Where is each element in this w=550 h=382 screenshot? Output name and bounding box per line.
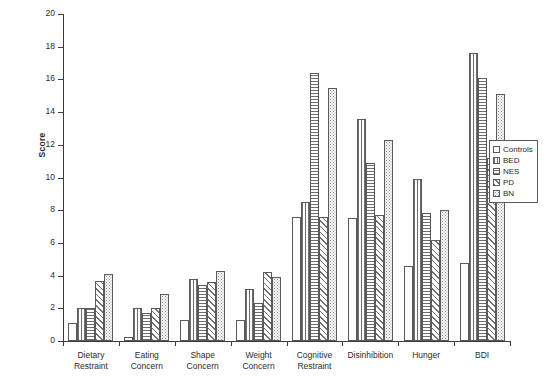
bar xyxy=(366,163,375,341)
bar xyxy=(68,323,77,341)
bar xyxy=(496,94,505,341)
legend-swatch-icon xyxy=(493,179,500,186)
x-axis-category-label: Disinhibition xyxy=(342,350,398,361)
legend-item: NES xyxy=(493,166,533,177)
x-axis-category-label: Weight Concern xyxy=(231,350,287,372)
y-axis-tick-label: 8 xyxy=(50,204,55,214)
bar-groups xyxy=(63,14,510,341)
bar xyxy=(86,308,95,341)
bar xyxy=(384,140,393,341)
x-axis-category-label: Shape Concern xyxy=(175,350,231,372)
legend-item: BN xyxy=(493,188,533,199)
legend-swatch-icon xyxy=(493,146,500,153)
x-axis-tick xyxy=(175,341,176,346)
x-axis-category-label: Eating Concern xyxy=(119,350,175,372)
bar-group xyxy=(119,14,175,341)
y-axis-tick-label: 18 xyxy=(46,41,55,51)
y-axis-tick-label: 2 xyxy=(50,302,55,312)
bar xyxy=(236,320,245,341)
bar xyxy=(469,53,478,341)
legend-swatch-icon xyxy=(493,157,500,164)
x-axis-tick xyxy=(342,341,343,346)
y-axis-tick-label: 14 xyxy=(46,106,55,116)
bar xyxy=(133,308,142,341)
bar xyxy=(422,213,431,341)
bar xyxy=(375,215,384,341)
x-axis-category-label: Dietary Restraint xyxy=(63,350,119,372)
legend-item-label: NES xyxy=(503,167,519,176)
bar-group-bars xyxy=(119,14,175,341)
bar xyxy=(431,240,440,341)
bar xyxy=(245,289,254,341)
bar xyxy=(404,266,413,341)
bar-chart: Score 02468101214161820 Dietary Restrain… xyxy=(0,0,550,382)
bar xyxy=(460,263,469,341)
bar-group xyxy=(231,14,287,341)
x-axis-tick xyxy=(510,341,511,346)
y-axis-tick-label: 4 xyxy=(50,270,55,280)
plot-area: 02468101214161820 Dietary RestraintEatin… xyxy=(63,14,510,341)
bar xyxy=(319,217,328,341)
legend-item-label: BED xyxy=(503,156,519,165)
bar xyxy=(310,73,319,341)
y-axis-tick-label: 10 xyxy=(46,172,55,182)
y-axis-tick-label: 12 xyxy=(46,139,55,149)
bar-group-bars xyxy=(231,14,287,341)
bar xyxy=(216,271,225,341)
bar xyxy=(142,313,151,341)
bar xyxy=(348,218,357,341)
x-axis-tick xyxy=(63,341,64,346)
x-axis-category-label: BDI xyxy=(454,350,510,361)
bar-group-bars xyxy=(342,14,398,341)
bar-group-bars xyxy=(63,14,119,341)
bar xyxy=(301,202,310,341)
bar xyxy=(95,281,104,341)
chart-legend: ControlsBEDNESPDBN xyxy=(489,140,538,203)
bar xyxy=(263,272,272,341)
x-axis-tick xyxy=(119,341,120,346)
bar xyxy=(151,308,160,341)
bar-group-bars xyxy=(175,14,231,341)
legend-item: Controls xyxy=(493,144,533,155)
bar xyxy=(77,308,86,341)
bar xyxy=(180,320,189,341)
bar xyxy=(440,210,449,341)
legend-item-label: Controls xyxy=(503,145,533,154)
bar xyxy=(357,119,366,341)
legend-swatch-icon xyxy=(493,190,500,197)
legend-swatch-icon xyxy=(493,168,500,175)
x-axis-tick xyxy=(398,341,399,346)
bar-group xyxy=(342,14,398,341)
bar-group xyxy=(287,14,343,341)
legend-item-label: BN xyxy=(503,189,514,198)
bar-group xyxy=(175,14,231,341)
legend-item: BED xyxy=(493,155,533,166)
bar xyxy=(413,179,422,341)
y-axis-tick-label: 6 xyxy=(50,237,55,247)
legend-item: PD xyxy=(493,177,533,188)
bar-group xyxy=(398,14,454,341)
x-axis-category-label: Hunger xyxy=(398,350,454,361)
bar xyxy=(272,277,281,341)
x-axis-category-label: Cognitive Restraint xyxy=(287,350,343,372)
bar xyxy=(478,78,487,341)
bar xyxy=(189,279,198,341)
y-axis-tick-label: 16 xyxy=(46,73,55,83)
bar xyxy=(328,88,337,341)
bar xyxy=(207,282,216,341)
bar xyxy=(198,285,207,341)
bar-group-bars xyxy=(398,14,454,341)
bar xyxy=(124,337,133,341)
bar xyxy=(254,303,263,341)
x-axis-tick xyxy=(287,341,288,346)
x-axis-tick xyxy=(454,341,455,346)
bar-group xyxy=(63,14,119,341)
bar xyxy=(160,294,169,341)
legend-item-label: PD xyxy=(503,178,514,187)
y-axis-tick-label: 0 xyxy=(50,335,55,345)
bar xyxy=(104,274,113,341)
y-axis-tick-label: 20 xyxy=(46,8,55,18)
x-axis-tick xyxy=(231,341,232,346)
bar xyxy=(292,217,301,341)
bar-group-bars xyxy=(287,14,343,341)
